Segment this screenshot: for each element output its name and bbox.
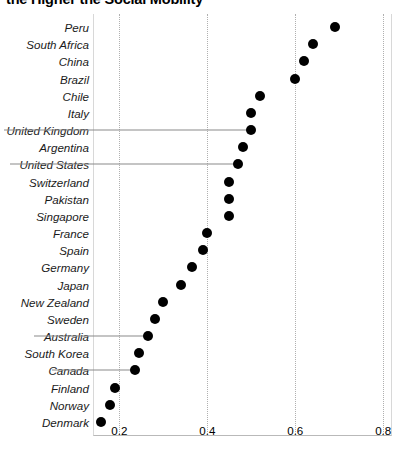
row-label-switzerland: Switzerland <box>29 175 89 188</box>
data-point-new-zealand <box>158 297 168 307</box>
data-point-south-korea <box>134 348 144 358</box>
row-label-sweden: Sweden <box>47 312 89 325</box>
gridline-0.4 <box>207 14 208 436</box>
row-label-new-zealand: New Zealand <box>21 295 89 308</box>
data-point-chile <box>255 91 265 101</box>
row-label-italy: Italy <box>68 106 89 119</box>
row-label-peru: Peru <box>65 21 90 34</box>
row-label-pakistan: Pakistan <box>45 192 89 205</box>
gridline-0.2 <box>119 14 120 436</box>
row-label-japan: Japan <box>57 278 89 291</box>
leader-line-australia <box>34 336 144 337</box>
data-point-france <box>202 228 212 238</box>
scatter-chart: the Higher the Social Mobility PeruSouth… <box>0 0 400 457</box>
leader-line-united-states <box>10 164 234 165</box>
row-label-china: China <box>59 55 89 68</box>
x-tick-label-0.2: 0.2 <box>111 424 127 437</box>
row-label-spain: Spain <box>59 244 89 257</box>
data-point-brazil <box>290 74 300 84</box>
data-point-pakistan <box>224 194 234 204</box>
x-tick-label-0.4: 0.4 <box>199 424 215 437</box>
data-point-south-africa <box>308 39 318 49</box>
data-point-germany <box>187 262 197 272</box>
data-point-canada <box>130 365 140 375</box>
data-point-denmark <box>96 417 106 427</box>
gridline-0.8 <box>383 14 384 436</box>
row-label-singapore: Singapore <box>36 209 89 222</box>
data-point-peru <box>330 22 340 32</box>
plot-area: PeruSouth AfricaChinaBrazilChileItalyUni… <box>93 14 392 436</box>
data-point-norway <box>105 400 115 410</box>
data-point-spain <box>198 245 208 255</box>
x-tick-label-0.6: 0.6 <box>287 424 303 437</box>
row-label-south-korea: South Korea <box>25 347 89 360</box>
leader-line-canada <box>52 370 131 371</box>
row-label-france: France <box>53 227 89 240</box>
data-point-argentina <box>238 142 248 152</box>
row-label-norway: Norway <box>50 398 89 411</box>
data-point-australia <box>143 331 153 341</box>
data-point-japan <box>176 280 186 290</box>
row-label-finland: Finland <box>51 381 89 394</box>
data-point-sweden <box>150 314 160 324</box>
row-label-brazil: Brazil <box>60 72 89 85</box>
row-label-argentina: Argentina <box>39 141 89 154</box>
data-point-united-states <box>233 159 243 169</box>
row-label-south-africa: South Africa <box>26 38 89 51</box>
chart-title: the Higher the Social Mobility <box>6 0 203 7</box>
row-label-germany: Germany <box>41 261 89 274</box>
data-point-switzerland <box>224 177 234 187</box>
data-point-italy <box>246 108 256 118</box>
x-tick-label-0.8: 0.8 <box>375 424 391 437</box>
data-point-singapore <box>224 211 234 221</box>
row-label-denmark: Denmark <box>42 416 89 429</box>
data-point-united-kingdom <box>246 125 256 135</box>
data-point-finland <box>110 383 120 393</box>
row-label-chile: Chile <box>63 89 89 102</box>
leader-line-united-kingdom <box>4 130 247 131</box>
data-point-china <box>299 56 309 66</box>
